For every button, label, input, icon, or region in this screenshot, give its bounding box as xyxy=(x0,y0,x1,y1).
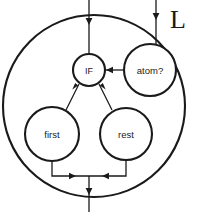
node-if-label: IF xyxy=(85,66,94,76)
edge-first-to-if xyxy=(66,83,79,110)
node-rest[interactable]: rest xyxy=(100,108,152,160)
edge-input-top-left xyxy=(86,0,93,54)
edge-atom-to-if xyxy=(105,67,124,73)
edge-first-to-merge xyxy=(52,161,89,179)
outer-boundary-circle xyxy=(3,15,185,197)
edge-rest-to-if xyxy=(99,83,112,110)
arrowhead-down-icon xyxy=(86,18,93,25)
node-first-label: first xyxy=(44,129,60,140)
arrowhead-right-icon xyxy=(69,173,76,179)
outer-boundary-label: L xyxy=(170,5,186,34)
arrowhead-down-icon xyxy=(153,13,160,20)
arrowhead-left-icon xyxy=(102,173,109,179)
arrowhead-left-icon xyxy=(106,67,113,73)
node-first[interactable]: first xyxy=(25,107,79,161)
diagram-canvas: atom? first rest IF L xyxy=(0,0,198,212)
graph-reduction-diagram: atom? first rest IF L xyxy=(0,0,198,212)
node-rest-label: rest xyxy=(118,129,134,140)
node-if[interactable]: IF xyxy=(73,54,105,86)
node-atom[interactable]: atom? xyxy=(124,44,176,96)
edge-merge-out-bottom xyxy=(86,176,93,212)
edge-rest-to-merge xyxy=(89,160,126,179)
node-atom-label: atom? xyxy=(137,65,163,76)
arrowhead-down-icon xyxy=(86,188,93,195)
